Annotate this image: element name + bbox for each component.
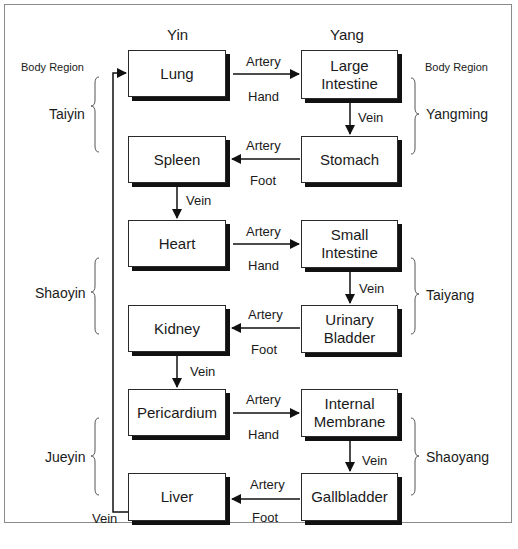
connector-layer	[0, 0, 518, 549]
brace-shaoyin	[91, 258, 99, 334]
edge-label-foot: Foot	[252, 510, 278, 525]
node-heart-label: Heart	[159, 235, 196, 253]
edge-label-vein: Vein	[190, 364, 215, 379]
edge-label-artery: Artery	[250, 477, 285, 492]
edge-label-foot: Foot	[251, 342, 277, 357]
brace-shaoyang	[411, 418, 419, 495]
edge-label-artery: Artery	[246, 138, 281, 153]
brace-yangming	[411, 78, 419, 154]
edge-label-artery: Artery	[246, 392, 281, 407]
column-header-yin: Yin	[167, 26, 188, 43]
arrow-liver-to-lung	[113, 73, 128, 512]
node-urinary-bladder-label: Urinary Bladder	[315, 311, 385, 347]
node-stomach: Stomach	[301, 136, 398, 183]
edge-label-foot: Foot	[250, 173, 276, 188]
edge-label-vein: Vein	[358, 110, 383, 125]
node-pericardium-label: Pericardium	[137, 404, 217, 422]
node-lung-label: Lung	[160, 65, 193, 83]
region-shaoyang: Shaoyang	[426, 449, 489, 465]
node-spleen-label: Spleen	[154, 151, 201, 169]
node-large-intestine: Large Intestine	[301, 50, 398, 99]
node-kidney: Kidney	[128, 305, 226, 352]
brace-jueyin	[91, 418, 99, 495]
edge-label-hand: Hand	[248, 89, 279, 104]
column-header-yang: Yang	[330, 26, 364, 43]
edge-label-artery: Artery	[246, 54, 281, 69]
node-liver-label: Liver	[161, 488, 194, 506]
region-shaoyin: Shaoyin	[35, 285, 86, 301]
brace-taiyang	[411, 258, 419, 334]
region-yangming: Yangming	[426, 106, 488, 122]
brace-taiyin	[91, 77, 99, 152]
region-jueyin: Jueyin	[45, 449, 85, 465]
node-large-intestine-label: Large Intestine	[310, 57, 390, 93]
node-internal-membrane: Internal Membrane	[301, 389, 398, 437]
node-pericardium: Pericardium	[128, 389, 226, 436]
node-gallbladder-label: Gallbladder	[311, 488, 388, 506]
edge-label-vein: Vein	[359, 281, 384, 296]
edge-label-artery: Artery	[248, 307, 283, 322]
node-heart: Heart	[128, 220, 226, 267]
node-spleen: Spleen	[128, 136, 226, 183]
body-region-label-right: Body Region	[425, 61, 488, 73]
region-taiyang: Taiyang	[426, 287, 474, 303]
node-small-intestine: Small Intestine	[301, 220, 398, 268]
edge-label-vein: Vein	[186, 193, 211, 208]
region-taiyin: Taiyin	[49, 106, 85, 122]
node-liver: Liver	[128, 473, 226, 521]
edge-label-hand: Hand	[248, 258, 279, 273]
edge-label-hand: Hand	[248, 427, 279, 442]
node-urinary-bladder: Urinary Bladder	[301, 305, 398, 353]
node-lung: Lung	[128, 50, 226, 97]
node-kidney-label: Kidney	[154, 320, 200, 338]
node-internal-membrane-label: Internal Membrane	[309, 395, 391, 431]
edge-label-artery: Artery	[246, 224, 281, 239]
node-stomach-label: Stomach	[320, 151, 379, 169]
node-gallbladder: Gallbladder	[301, 473, 398, 521]
body-region-label-left: Body Region	[21, 61, 84, 73]
edge-label-vein: Vein	[92, 511, 117, 526]
node-small-intestine-label: Small Intestine	[310, 226, 390, 262]
edge-label-vein: Vein	[362, 453, 387, 468]
